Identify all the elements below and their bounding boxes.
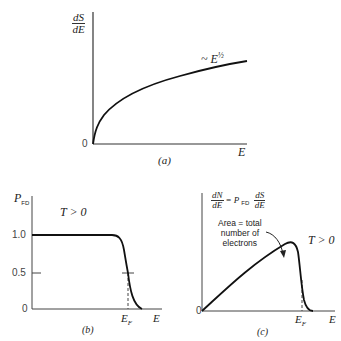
panel-a-xlabel: E [238, 146, 245, 158]
xtick-sub: F [302, 320, 306, 328]
annotation-exponent: ½ [218, 51, 224, 60]
ylabel-denominator-2: dE [255, 201, 265, 210]
panel-b-condition: T > 0 [60, 206, 87, 218]
ylabel-equals: = P [226, 196, 240, 205]
panel-a-annotation: ~ E½ [201, 52, 224, 65]
ylabel-denominator: dE [212, 201, 222, 210]
xtick-sub: F [128, 319, 132, 327]
ytick-0-5: 0.5 [12, 268, 26, 278]
panel-a-curve [93, 61, 247, 144]
panel-a-ylabel: dSdE [72, 12, 85, 35]
ylabel-sub: FD [241, 200, 249, 206]
panel-c-condition: T > 0 [308, 234, 335, 246]
panel-c-ylabel: dNdE = PFD dSdE [211, 191, 265, 210]
panel-b-xlabel: E [153, 313, 160, 324]
ylabel-denominator: dE [72, 24, 84, 35]
panel-a-origin: 0 [82, 139, 88, 149]
panel-b-ylabel: PFD [14, 192, 29, 206]
ylabel-sub: FD [21, 200, 29, 206]
panel-b-axes [32, 196, 162, 309]
panel-b-curve [32, 235, 142, 309]
annotation-base: ~ E [201, 52, 218, 66]
panel-c-xtick-ef: EF [295, 314, 306, 328]
panel-c-origin: 0 [196, 306, 202, 316]
panel-b-caption: (b) [82, 325, 94, 335]
area-annotation: Area = total number of electrons [218, 219, 262, 248]
xtick-main: E [121, 312, 128, 324]
panel-c-xlabel: E [329, 314, 336, 325]
panel-a-caption: (a) [158, 155, 171, 166]
panel-c-curve [202, 242, 313, 311]
xtick-main: E [295, 313, 302, 325]
ytick-1-0: 1.0 [12, 230, 26, 240]
panel-b-xtick-ef: EF [121, 313, 132, 327]
panel-c-caption: (c) [257, 327, 268, 337]
annotation-line-3: electrons [218, 239, 262, 249]
figure-canvas [0, 0, 341, 341]
arrow-head-icon [280, 250, 286, 258]
ytick-0: 0 [22, 304, 28, 314]
